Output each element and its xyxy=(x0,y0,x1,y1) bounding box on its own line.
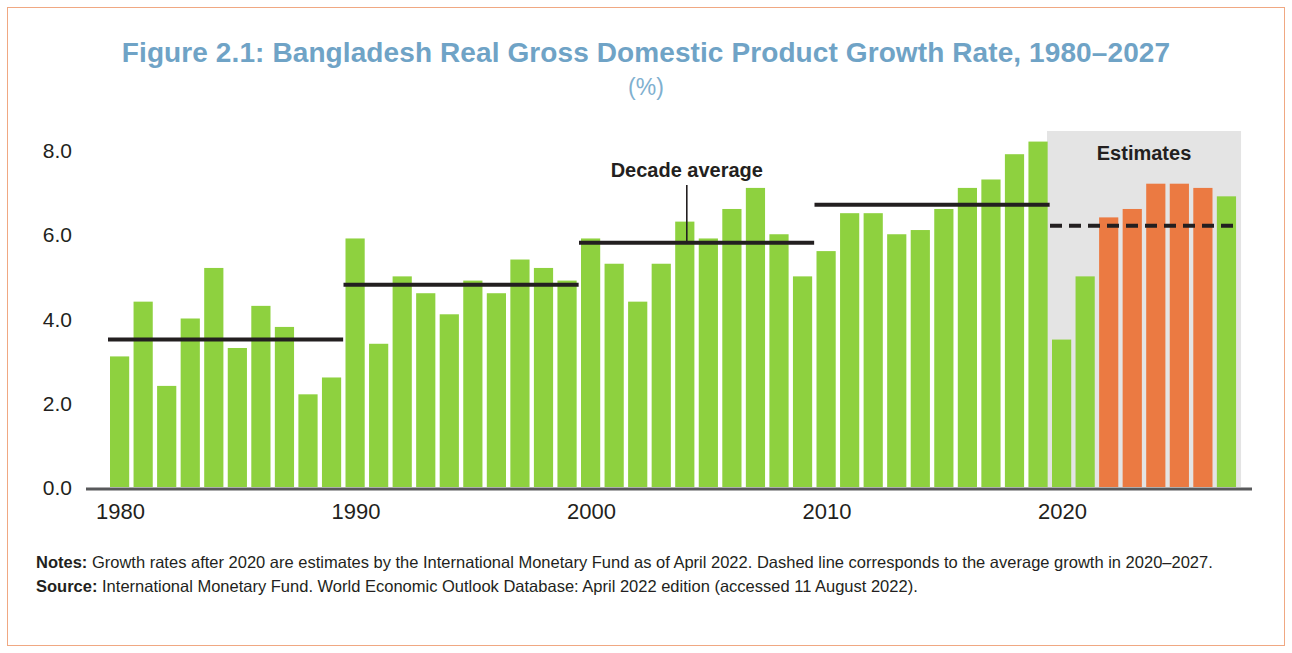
chart-bar xyxy=(510,260,529,487)
chart-bar xyxy=(251,306,270,487)
chart-bar xyxy=(981,179,1000,487)
chart-bar xyxy=(346,238,365,487)
chart-bar xyxy=(1217,196,1236,487)
y-axis-tick-label: 8.0 xyxy=(43,139,72,162)
chart-bar xyxy=(652,264,671,487)
figure-container: Figure 2.1: Bangladesh Real Gross Domest… xyxy=(0,0,1292,653)
chart-bar xyxy=(228,348,247,487)
notes-text: Growth rates after 2020 are estimates by… xyxy=(92,553,1213,571)
chart-bar xyxy=(1028,142,1047,487)
chart-bar xyxy=(911,230,930,487)
chart-bar xyxy=(817,251,836,487)
y-axis-tick-label: 6.0 xyxy=(43,223,72,246)
chart-bar xyxy=(275,327,294,487)
source-label: Source: xyxy=(36,577,97,595)
x-axis-tick-label: 1990 xyxy=(332,499,381,524)
chart-bar xyxy=(322,377,341,487)
y-axis-tick-label: 2.0 xyxy=(43,392,72,415)
chart-bar xyxy=(864,213,883,487)
chart-bar xyxy=(181,319,200,488)
chart-bar xyxy=(534,268,553,487)
chart-bar xyxy=(793,276,812,487)
x-axis-tick-label: 2020 xyxy=(1038,499,1087,524)
chart-bar xyxy=(1052,340,1071,487)
x-axis-tick-label: 1980 xyxy=(96,499,145,524)
chart-bar xyxy=(699,238,718,487)
chart-bar xyxy=(1123,209,1142,487)
chart-bar xyxy=(746,188,765,487)
chart-bar xyxy=(1170,184,1189,487)
figure-footer: Notes: Growth rates after 2020 are estim… xyxy=(36,551,1252,598)
chart-bar xyxy=(487,293,506,487)
x-axis-tick-label: 2010 xyxy=(803,499,852,524)
chart-bar xyxy=(369,344,388,487)
chart-bar xyxy=(463,281,482,487)
source-text: International Monetary Fund. World Econo… xyxy=(102,577,918,595)
y-axis-tick-label: 0.0 xyxy=(43,476,72,499)
chart-bar xyxy=(204,268,223,487)
chart-bar xyxy=(1076,276,1095,487)
decade-average-annotation-label: Decade average xyxy=(611,159,763,181)
x-axis-tick-label: 2000 xyxy=(567,499,616,524)
chart-bar xyxy=(416,293,435,487)
source-paragraph: Source: International Monetary Fund. Wor… xyxy=(36,575,1252,598)
chart-bar xyxy=(134,302,153,487)
chart-bar xyxy=(887,234,906,487)
chart-bar xyxy=(675,222,694,487)
chart-bar xyxy=(1146,184,1165,487)
notes-paragraph: Notes: Growth rates after 2020 are estim… xyxy=(36,551,1252,574)
chart-bar xyxy=(1193,188,1212,487)
chart-bar xyxy=(769,234,788,487)
chart-bar xyxy=(157,386,176,487)
chart-bar xyxy=(722,209,741,487)
estimates-band-label: Estimates xyxy=(1097,142,1192,164)
chart-bar xyxy=(298,394,317,487)
chart-bar xyxy=(581,238,600,487)
chart-bar xyxy=(605,264,624,487)
chart-bar xyxy=(110,356,129,487)
notes-label: Notes: xyxy=(36,553,87,571)
chart-bar xyxy=(440,314,459,487)
chart-bar xyxy=(628,302,647,487)
chart-bar xyxy=(557,281,576,487)
chart-bar xyxy=(958,188,977,487)
y-axis-tick-label: 4.0 xyxy=(43,308,72,331)
chart-bar xyxy=(393,276,412,487)
chart-bar xyxy=(934,209,953,487)
chart-bar xyxy=(840,213,859,487)
chart-bar xyxy=(1099,217,1118,487)
